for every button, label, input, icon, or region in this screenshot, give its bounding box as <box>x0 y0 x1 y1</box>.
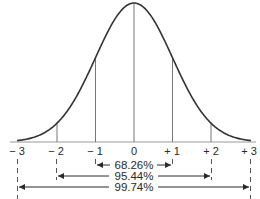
tick-label-plus-1: + 1 <box>164 145 180 157</box>
tick-label-minus-3: − 3 <box>9 145 25 157</box>
tick-label-minus-2: − 2 <box>48 145 64 157</box>
range-99: 99.74% <box>19 181 249 193</box>
tick-label-minus-1: − 1 <box>87 145 103 157</box>
tick-label-plus-3: + 3 <box>241 145 257 157</box>
tick-labels: − 3 − 2 − 1 0 + 1 + 2 + 3 <box>9 145 257 157</box>
tick-label-plus-2: + 2 <box>203 145 219 157</box>
normal-distribution-diagram: − 3 − 2 − 1 0 + 1 + 2 + 3 68.26% 95.44% … <box>0 0 260 199</box>
range-99-label: 99.74% <box>114 181 153 193</box>
sd-lines <box>57 3 211 142</box>
tick-label-0: 0 <box>131 145 137 157</box>
